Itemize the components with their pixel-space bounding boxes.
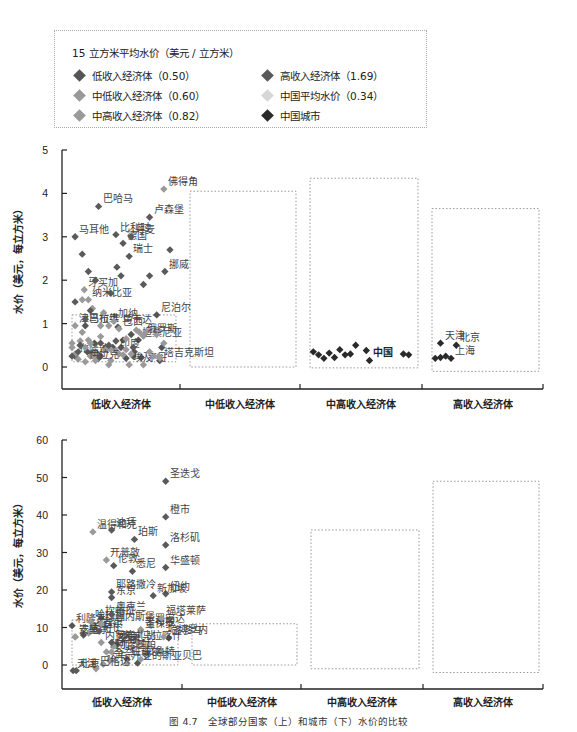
category-label: 中高收入经济体: [327, 696, 398, 708]
point-label: 橙市: [170, 503, 190, 515]
point-label: 中国: [373, 346, 393, 358]
y-tick-label: 5: [42, 144, 48, 156]
data-point: [336, 346, 343, 353]
point-label: 上海: [455, 344, 475, 356]
bottom-chart-cities: 0102030405060水价（美元，每立方米）低收入经济体中低收入经济体中高收…: [12, 434, 543, 708]
category-label: 中高收入经济体: [326, 398, 397, 410]
group-range-box: [432, 209, 539, 372]
point-label: 瑞士: [133, 242, 153, 254]
category-label: 高收入经济体: [453, 696, 514, 708]
data-point: [162, 478, 169, 485]
data-point: [161, 268, 168, 275]
point-label: 贝鲁特: [145, 645, 175, 657]
data-point: [366, 357, 373, 364]
y-tick-label: 4: [42, 187, 48, 199]
data-point: [68, 344, 75, 351]
data-point: [113, 264, 120, 271]
data-point: [347, 350, 354, 357]
category-label: 高收入经济体: [453, 398, 514, 410]
data-point: [131, 536, 138, 543]
point-label: 福塔莱萨: [166, 604, 206, 616]
data-point: [108, 594, 115, 601]
category-label: 低收入经济体: [90, 398, 152, 410]
point-label: 华盛顿: [170, 554, 200, 566]
group-range-box: [311, 530, 419, 669]
data-point: [160, 185, 167, 192]
charts-canvas: 012345水价（美元，每立方米）低收入经济体中低收入经济体中高收入经济体高收入…: [0, 0, 577, 732]
data-point: [146, 214, 153, 221]
point-label: 奥克兰: [116, 600, 146, 612]
point-label: 巴哈马: [103, 192, 133, 204]
y-tick-label: 60: [36, 434, 48, 446]
point-label: 悉尼: [136, 558, 156, 569]
point-label: 安曼: [79, 623, 99, 635]
point-label: 圣迭戈: [170, 467, 200, 479]
data-point: [129, 568, 136, 575]
y-tick-label: 3: [42, 231, 48, 243]
point-label: 巴西: [123, 316, 143, 327]
point-label: 巴格达: [100, 655, 130, 667]
data-point: [405, 351, 412, 358]
data-point: [81, 286, 88, 293]
data-point: [352, 342, 359, 349]
data-point: [146, 272, 153, 279]
point-label: 印度: [120, 337, 140, 349]
data-point: [95, 203, 102, 210]
y-axis-label: 水价（美元，每立方米）: [12, 498, 24, 609]
data-point: [112, 231, 119, 238]
y-tick-label: 0: [42, 659, 48, 671]
category-label: 中低收入经济体: [207, 696, 278, 708]
point-label: 迪拜: [116, 517, 136, 528]
point-label: 尼泊尔: [161, 301, 191, 313]
data-point: [71, 322, 78, 329]
data-point: [85, 296, 92, 303]
data-point: [98, 639, 105, 646]
data-point: [140, 281, 147, 288]
point-label: 阿布扎比: [116, 629, 156, 641]
data-point: [162, 564, 169, 571]
point-label: 东京: [116, 584, 136, 596]
data-point: [437, 354, 444, 361]
point-label: 俄罗斯: [147, 322, 177, 334]
point-label: 卢森堡: [154, 203, 184, 215]
data-point: [68, 622, 75, 629]
data-point: [89, 528, 96, 535]
category-label: 中低收入经济体: [205, 398, 276, 410]
group-range-box: [192, 624, 297, 665]
group-range-box: [310, 178, 418, 368]
figure-caption: 图 4.7 全球部分国家（上）和城市（下）水价的比较: [0, 714, 577, 728]
y-tick-label: 10: [36, 622, 48, 634]
point-label: 珀斯: [138, 525, 158, 537]
point-label: 伦敦: [118, 552, 138, 564]
y-axis-label: 水价（美元，每立方米）: [12, 204, 24, 315]
point-label: 伊拉克: [89, 348, 119, 360]
category-label: 低收入经济体: [91, 696, 153, 708]
point-label: 洛杉矶: [170, 531, 200, 543]
point-label: 挪威: [169, 258, 189, 270]
point-label: 塔吉克斯坦: [164, 346, 214, 358]
point-label: 丹麦: [135, 224, 155, 235]
data-point: [79, 250, 86, 257]
data-point: [162, 541, 169, 548]
y-tick-label: 40: [36, 509, 48, 521]
data-point: [437, 339, 444, 346]
data-point: [125, 253, 132, 260]
data-point: [331, 354, 338, 361]
data-point: [97, 333, 104, 340]
point-label: 北京: [80, 657, 100, 669]
data-point: [166, 246, 173, 253]
data-point: [162, 513, 169, 520]
y-tick-label: 0: [42, 361, 48, 373]
point-label: 北京: [460, 331, 480, 343]
data-point: [363, 347, 370, 354]
data-point: [79, 329, 86, 336]
data-point: [71, 233, 78, 240]
data-point: [150, 592, 157, 599]
point-label: 哈博罗内: [168, 623, 208, 635]
group-range-box: [190, 191, 296, 367]
data-point: [112, 337, 119, 344]
data-point: [153, 311, 160, 318]
y-tick-label: 1: [42, 318, 48, 330]
data-point: [85, 268, 92, 275]
data-point: [82, 358, 89, 365]
